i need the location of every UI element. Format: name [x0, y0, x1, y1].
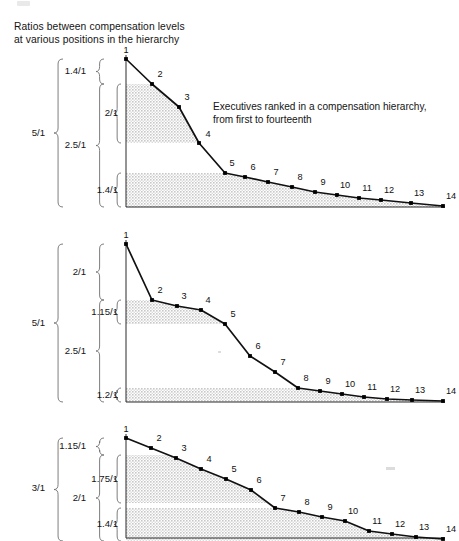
- data-point-2: [150, 298, 154, 302]
- scan-speck-1: [386, 467, 395, 470]
- data-point-11: [357, 196, 361, 200]
- point-label-1: 1: [123, 46, 128, 55]
- data-point-7: [273, 506, 277, 510]
- ratio-label-1-4-1: 1.4/1: [78, 185, 118, 195]
- ratio-label-1-2-1: 1.2/1: [78, 390, 118, 400]
- point-label-5: 5: [229, 159, 234, 168]
- data-point-8: [290, 185, 294, 189]
- point-label-3: 3: [181, 444, 186, 453]
- point-label-14: 14: [446, 192, 456, 201]
- point-label-12: 12: [384, 186, 394, 195]
- point-label-13: 13: [414, 189, 424, 198]
- ratio-label-2-1: 2/1: [46, 267, 86, 277]
- data-point-1: [124, 57, 128, 61]
- scan-speck-2: [218, 351, 221, 353]
- point-label-1: 1: [123, 425, 128, 434]
- data-point-2: [149, 446, 153, 450]
- chart-2: 12345678910111213145/12/12.5/11.15/11.2/…: [0, 238, 459, 408]
- data-point-13: [409, 201, 413, 205]
- figure-root: Ratios between compensation levels at va…: [0, 0, 459, 541]
- data-point-10: [343, 519, 347, 523]
- data-point-10: [340, 392, 344, 396]
- point-label-11: 11: [367, 383, 377, 392]
- data-point-14: [441, 537, 445, 541]
- point-label-1: 1: [123, 231, 128, 240]
- data-point-5: [224, 477, 228, 481]
- ratio-label-1-4-1: 1.4/1: [78, 519, 118, 529]
- point-label-2: 2: [157, 70, 162, 79]
- point-label-7: 7: [280, 358, 285, 367]
- data-point-9: [313, 190, 317, 194]
- point-label-7: 7: [273, 168, 278, 177]
- ratio-label-2-1: 2/1: [78, 108, 118, 118]
- data-point-3: [177, 105, 181, 109]
- point-label-4: 4: [205, 296, 210, 305]
- data-point-4: [197, 141, 201, 145]
- data-point-12: [379, 198, 383, 202]
- brace-2-1: [96, 244, 104, 300]
- point-label-13: 13: [415, 386, 425, 395]
- plot-annotation: Executives ranked in a compensation hier…: [213, 100, 427, 126]
- data-point-12: [390, 532, 394, 536]
- data-point-9: [318, 389, 322, 393]
- chart-1: 12345678910111213145/11.4/12.5/12/11.4/1…: [0, 50, 459, 225]
- data-point-7: [266, 180, 270, 184]
- point-label-4: 4: [205, 130, 210, 139]
- point-label-6: 6: [256, 476, 261, 485]
- ratio-label-5-1: 5/1: [5, 128, 45, 138]
- data-point-6: [248, 354, 252, 358]
- data-point-2: [150, 82, 154, 86]
- scan-artifact: [17, 1, 30, 6]
- brace-5-1: [54, 59, 63, 207]
- data-point-14: [441, 204, 445, 208]
- point-label-8: 8: [303, 374, 308, 383]
- data-point-8: [297, 510, 301, 514]
- chart-2-plot: [0, 238, 459, 408]
- data-point-13: [414, 535, 418, 539]
- point-label-11: 11: [372, 517, 382, 526]
- data-point-5: [223, 322, 227, 326]
- figure-title: Ratios between compensation levels at va…: [14, 20, 185, 46]
- scan-speck-0: [338, 196, 341, 198]
- point-label-3: 3: [184, 93, 189, 102]
- data-point-11: [367, 529, 371, 533]
- point-label-2: 2: [157, 286, 162, 295]
- chart-3: 12345678910111213143/11.15/12/11.75/11.4…: [0, 430, 459, 541]
- ratio-label-2-5-1: 2.5/1: [46, 140, 86, 150]
- ratio-label-1-15-1: 1.15/1: [46, 441, 86, 451]
- point-label-5: 5: [231, 465, 236, 474]
- chart-1-plot: [0, 50, 459, 225]
- ratio-label-1-15-1: 1.15/1: [78, 307, 118, 317]
- data-point-7: [273, 370, 277, 374]
- point-label-10: 10: [348, 507, 358, 516]
- data-point-3: [174, 456, 178, 460]
- data-point-8: [296, 386, 300, 390]
- data-point-6: [249, 488, 253, 492]
- data-point-4: [199, 308, 203, 312]
- point-label-13: 13: [419, 523, 429, 532]
- data-point-12: [385, 397, 389, 401]
- point-label-3: 3: [181, 292, 186, 301]
- ratio-label-2-1: 2/1: [46, 493, 86, 503]
- brace-1-4-1: [96, 59, 104, 84]
- data-point-6: [243, 175, 247, 179]
- data-point-3: [175, 304, 179, 308]
- point-label-12: 12: [395, 520, 405, 529]
- data-point-1: [124, 436, 128, 440]
- data-point-14: [441, 399, 445, 403]
- point-label-9: 9: [320, 178, 325, 187]
- point-label-8: 8: [297, 173, 302, 182]
- data-point-5: [223, 171, 227, 175]
- point-label-5: 5: [230, 310, 235, 319]
- point-label-14: 14: [446, 525, 456, 534]
- point-label-9: 9: [325, 377, 330, 386]
- point-label-11: 11: [362, 184, 372, 193]
- point-label-2: 2: [156, 434, 161, 443]
- point-label-10: 10: [340, 181, 350, 190]
- ratio-label-3-1: 3/1: [5, 483, 45, 493]
- data-point-4: [199, 467, 203, 471]
- ratio-label-5-1: 5/1: [5, 318, 45, 328]
- point-label-10: 10: [345, 380, 355, 389]
- point-label-6: 6: [255, 342, 260, 351]
- point-label-4: 4: [206, 455, 211, 464]
